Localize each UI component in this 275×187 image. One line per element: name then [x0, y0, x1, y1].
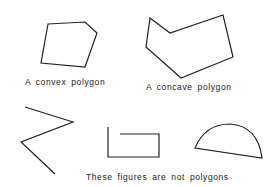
- concave-polygon: [146, 15, 233, 78]
- not-polygons-label: These figures are not polygons: [86, 172, 229, 182]
- semicircle-figure: [195, 124, 262, 158]
- polygon-diagram: [0, 0, 275, 187]
- open-rectangle-figure: [108, 127, 159, 157]
- self-intersecting-figure: [21, 107, 73, 174]
- convex-polygon: [41, 22, 97, 67]
- concave-label: A concave polygon: [146, 82, 232, 92]
- convex-label: A convex polygon: [25, 77, 105, 87]
